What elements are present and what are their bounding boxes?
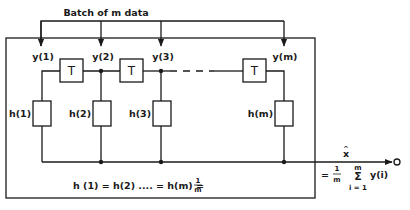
moving-average-filter-diagram: Batch of m data y(1) y(2) y(3) y(m) T T … (0, 0, 410, 210)
weight-block-2 (93, 101, 111, 126)
weight-block-m (275, 101, 293, 126)
delay-label-1: T (67, 64, 76, 78)
output-frac-den: m (333, 176, 340, 184)
weight-label-1: h(1) (9, 108, 31, 119)
sum-junction-dot (99, 160, 103, 164)
summand: y(i) (370, 169, 388, 180)
weight-label-3: h(3) (129, 108, 151, 119)
input-label-3: y(3) (152, 51, 174, 62)
weight-block-3 (153, 101, 171, 126)
output-equals: = (321, 169, 329, 180)
junction-dot (159, 69, 163, 73)
input-label-m: y(m) (273, 51, 298, 62)
delay-label-2: T (127, 64, 136, 78)
weight-label-2: h(2) (69, 108, 91, 119)
sum-junction-dot (282, 160, 286, 164)
x-hat-symbol: x (343, 148, 349, 159)
weight-block-1 (33, 101, 51, 126)
junction-dot (99, 69, 103, 73)
weight-label-m: h(m) (248, 108, 273, 119)
weight-equation: h (1) = h(2) .... = h(m) = (73, 180, 204, 191)
chain-end-line (266, 71, 284, 101)
weight-frac-num: 1 (196, 177, 201, 185)
input-bus (41, 21, 284, 46)
input-label-1: y(1) (32, 51, 54, 62)
weight-frac-den: m (194, 186, 201, 194)
chain-start-line (42, 71, 60, 101)
output-frac-num: 1 (335, 165, 340, 173)
sigma-symbol: Σ (354, 170, 362, 183)
sum-lower-limit: i = 1 (349, 184, 367, 192)
batch-title: Batch of m data (63, 7, 148, 18)
output-terminal (394, 159, 400, 165)
input-label-2: y(2) (92, 51, 114, 62)
delay-label-3: T (250, 64, 259, 78)
sum-junction-dot (159, 160, 163, 164)
